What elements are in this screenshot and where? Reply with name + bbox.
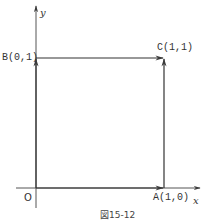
point-c-label: C(1,1) — [157, 43, 193, 53]
figure-caption: 図15-12 — [100, 210, 135, 220]
y-axis-label: y — [40, 8, 46, 18]
x-axis-label: x — [193, 196, 199, 206]
origin-label: O — [24, 193, 32, 203]
point-a-label: A(1,0) — [153, 193, 189, 203]
point-b-label: B(0,1) — [2, 53, 38, 63]
coordinate-diagram — [0, 0, 208, 224]
